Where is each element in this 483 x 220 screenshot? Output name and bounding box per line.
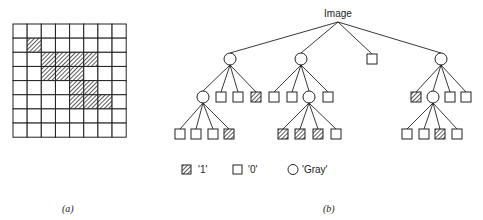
grid-cell-0 bbox=[84, 38, 98, 52]
grid-cell-0 bbox=[13, 81, 27, 95]
grid-cell-1 bbox=[27, 38, 41, 52]
grid-cell-0 bbox=[13, 66, 27, 80]
root-label: Image bbox=[324, 8, 352, 19]
grid-cell-0 bbox=[27, 81, 41, 95]
grid-cell-0 bbox=[84, 24, 98, 38]
caption-b: (b) bbox=[323, 203, 335, 215]
legend-empty-square-icon bbox=[233, 165, 242, 174]
grid-cell-0 bbox=[98, 38, 112, 52]
leaf-node-0 bbox=[323, 92, 333, 102]
leaf-node-1 bbox=[224, 129, 234, 139]
grid-cell-1 bbox=[84, 95, 98, 109]
grid-cell-0 bbox=[70, 24, 84, 38]
grid-cell-1 bbox=[70, 81, 84, 95]
grid-cell-0 bbox=[98, 66, 112, 80]
grid-cell-0 bbox=[55, 123, 69, 137]
legend-label-1: '1' bbox=[198, 164, 207, 175]
grid-cell-0 bbox=[70, 38, 84, 52]
leaf-node-1 bbox=[435, 129, 445, 139]
grid-cell-0 bbox=[112, 123, 126, 137]
grid-cell-0 bbox=[112, 81, 126, 95]
grid-cell-1 bbox=[98, 95, 112, 109]
quadtree-figure: (a) Image '1' '0' 'Gray' (b) bbox=[0, 0, 483, 220]
grid-cell-0 bbox=[112, 24, 126, 38]
grid-cell-0 bbox=[112, 52, 126, 66]
leaf-node-0 bbox=[445, 92, 455, 102]
grid-cell-0 bbox=[41, 109, 55, 123]
grid-cell-0 bbox=[13, 109, 27, 123]
grid-cell-0 bbox=[41, 123, 55, 137]
leaf-node-1 bbox=[251, 92, 261, 102]
grid-cell-0 bbox=[41, 38, 55, 52]
legend-hatched-square-icon bbox=[182, 165, 191, 174]
gray-node bbox=[435, 53, 447, 65]
leaf-node-0 bbox=[461, 92, 471, 102]
grid-cell-0 bbox=[84, 66, 98, 80]
grid-cell-0 bbox=[112, 66, 126, 80]
grid-cell-0 bbox=[98, 123, 112, 137]
leaf-node-0 bbox=[402, 129, 412, 139]
grid-cell-0 bbox=[70, 109, 84, 123]
grid-cell-0 bbox=[70, 123, 84, 137]
grid-cell-1 bbox=[55, 66, 69, 80]
leaf-node-0 bbox=[287, 92, 297, 102]
leaf-node-1 bbox=[411, 92, 421, 102]
leaf-node-0 bbox=[452, 129, 462, 139]
grid-cell-0 bbox=[41, 95, 55, 109]
gray-node bbox=[295, 53, 307, 65]
legend-label-0: '0' bbox=[248, 164, 257, 175]
grid-cell-0 bbox=[13, 24, 27, 38]
leaf-node-0 bbox=[331, 129, 341, 139]
grid-cell-0 bbox=[27, 95, 41, 109]
leaf-node-0 bbox=[208, 129, 218, 139]
leaf-node-1 bbox=[295, 129, 305, 139]
grid-cell-0 bbox=[98, 109, 112, 123]
grid-cell-0 bbox=[98, 24, 112, 38]
grid-cell-1 bbox=[84, 81, 98, 95]
gray-node bbox=[197, 91, 209, 103]
grid-cell-0 bbox=[41, 81, 55, 95]
grid-cell-0 bbox=[27, 66, 41, 80]
leaf-node-1 bbox=[313, 129, 323, 139]
grid-cell-0 bbox=[27, 123, 41, 137]
grid-cell-0 bbox=[98, 81, 112, 95]
gray-node bbox=[427, 91, 439, 103]
grid-cell-1 bbox=[84, 52, 98, 66]
gray-node bbox=[303, 91, 315, 103]
grid-cell-0 bbox=[13, 52, 27, 66]
binary-image-grid bbox=[13, 24, 126, 137]
caption-a: (a) bbox=[62, 203, 74, 215]
leaf-node-1 bbox=[278, 129, 288, 139]
legend-circle-icon bbox=[288, 165, 298, 175]
gray-node bbox=[224, 53, 236, 65]
grid-cell-0 bbox=[55, 38, 69, 52]
grid-cell-1 bbox=[70, 52, 84, 66]
grid-cell-0 bbox=[27, 24, 41, 38]
grid-cell-0 bbox=[112, 38, 126, 52]
grid-cell-0 bbox=[13, 38, 27, 52]
grid-cell-0 bbox=[13, 95, 27, 109]
leaf-node-0 bbox=[419, 129, 429, 139]
grid-cell-0 bbox=[55, 95, 69, 109]
leaf-node-0 bbox=[175, 129, 185, 139]
leaf-node-0 bbox=[233, 92, 243, 102]
grid-cell-0 bbox=[112, 109, 126, 123]
grid-cell-1 bbox=[41, 52, 55, 66]
legend-label-gray: 'Gray' bbox=[302, 164, 328, 175]
grid-cell-0 bbox=[27, 109, 41, 123]
leaf-node-0 bbox=[191, 129, 201, 139]
grid-cell-1 bbox=[70, 66, 84, 80]
grid-cell-0 bbox=[55, 109, 69, 123]
leaf-node-0 bbox=[216, 92, 226, 102]
grid-cell-0 bbox=[112, 95, 126, 109]
grid-cell-0 bbox=[41, 24, 55, 38]
grid-cell-1 bbox=[41, 66, 55, 80]
quadtree-nodes bbox=[175, 53, 471, 139]
leaf-node-0 bbox=[269, 92, 279, 102]
grid-cell-1 bbox=[70, 95, 84, 109]
grid-cell-1 bbox=[55, 52, 69, 66]
leaf-node-0 bbox=[367, 54, 377, 64]
grid-cell-0 bbox=[98, 52, 112, 66]
grid-cell-0 bbox=[84, 123, 98, 137]
grid-cell-0 bbox=[55, 24, 69, 38]
